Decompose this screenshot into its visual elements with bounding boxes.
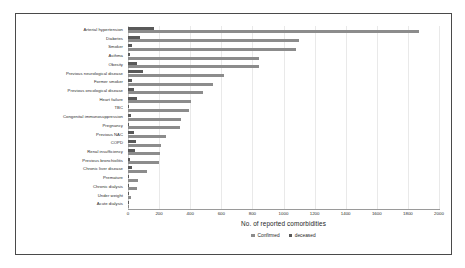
y-axis-label: Previous neurological disease — [66, 72, 123, 77]
y-axis-label: Previous NAC — [96, 133, 123, 138]
bar-deceased — [128, 158, 130, 161]
legend-item: deceased — [289, 233, 316, 238]
bar-deceased — [128, 62, 137, 65]
y-axis-label: Pregnancy — [103, 124, 123, 129]
bar-deceased — [128, 192, 129, 195]
bar-confirmed — [128, 144, 161, 147]
bar-group — [128, 70, 439, 79]
chart-figure: Arterial hypertensionDiabetesSmokerAsthm… — [15, 13, 452, 255]
bar-deceased — [128, 201, 129, 204]
bar-deceased — [128, 149, 135, 152]
x-tick-label: 1600 — [372, 211, 382, 216]
bar-confirmed — [128, 65, 259, 68]
x-axis-line — [128, 209, 440, 210]
bar-deceased — [128, 44, 132, 47]
bar-group — [128, 131, 439, 140]
x-tick-label: 600 — [218, 211, 225, 216]
bar-group — [128, 140, 439, 149]
bar-deceased — [128, 79, 132, 82]
bar-confirmed — [128, 83, 213, 86]
y-axis-label: Chronic liver disease — [83, 167, 123, 172]
x-tick-label: 1000 — [279, 211, 289, 216]
bar-confirmed — [128, 135, 166, 138]
bar-deceased — [128, 166, 132, 169]
y-axis-label: Arterial hypertension — [84, 28, 123, 33]
legend-label: Confirmed — [258, 233, 280, 238]
y-axis-label: TBC — [114, 106, 123, 111]
bar-group — [128, 184, 439, 193]
bar-confirmed — [128, 126, 180, 129]
bar-group — [128, 88, 439, 97]
bar-confirmed — [128, 118, 181, 121]
gridline-2000 — [439, 26, 440, 209]
y-axis-label: Former smoker — [94, 80, 123, 85]
bar-group — [128, 62, 439, 71]
legend-swatch-icon — [251, 234, 255, 238]
bar-deceased — [128, 27, 154, 30]
bar-group — [128, 105, 439, 114]
y-axis-label: Premature — [103, 176, 123, 181]
bar-deceased — [128, 184, 129, 187]
x-tick-label: 800 — [249, 211, 256, 216]
y-axis-label: Acute dialysis — [97, 202, 123, 207]
bar-deceased — [128, 114, 131, 117]
legend-label: deceased — [295, 233, 316, 238]
bar-confirmed — [128, 109, 189, 112]
y-axis-label: Smoker — [108, 45, 123, 50]
y-axis-label: Under weight — [98, 194, 123, 199]
bar-confirmed — [128, 30, 419, 33]
bar-group — [128, 175, 439, 184]
bar-deceased — [128, 97, 137, 100]
y-axis-label: Asthma — [109, 54, 124, 59]
bar-group — [128, 114, 439, 123]
bar-deceased — [128, 140, 136, 143]
y-axis-label: Heart failure — [100, 98, 123, 103]
bar-group — [128, 27, 439, 36]
bar-deceased — [128, 131, 134, 134]
y-axis-category-labels: Arterial hypertensionDiabetesSmokerAsthm… — [16, 26, 126, 209]
bar-confirmed — [128, 187, 137, 190]
bar-confirmed — [128, 91, 203, 94]
legend-item: Confirmed — [251, 233, 279, 238]
x-tick-label: 200 — [155, 211, 162, 216]
y-axis-label: Chronic dialysis — [93, 185, 123, 190]
bar-group — [128, 149, 439, 158]
bar-group — [128, 158, 439, 167]
x-tick-label: 400 — [187, 211, 194, 216]
bar-confirmed — [128, 39, 299, 42]
x-tick-label: 1200 — [310, 211, 320, 216]
y-axis-label: Previous bronchiolitis — [82, 159, 123, 164]
bar-group — [128, 97, 439, 106]
y-axis-label: Renal insufficiency — [87, 150, 123, 155]
x-tick-label: 2000 — [434, 211, 444, 216]
bar-deceased — [128, 36, 140, 39]
bar-group — [128, 36, 439, 45]
bar-confirmed — [128, 179, 138, 182]
bar-group — [128, 166, 439, 175]
bar-deceased — [128, 123, 129, 126]
y-axis-label: Congenital immunosuppression — [63, 115, 123, 120]
bar-confirmed — [128, 161, 159, 164]
bar-deceased — [128, 53, 130, 56]
bar-confirmed — [128, 57, 259, 60]
y-axis-label: Previous oncological disease — [68, 89, 123, 94]
bar-confirmed — [128, 48, 296, 51]
bar-confirmed — [128, 152, 160, 155]
chart-legend: Confirmeddeceased — [128, 233, 439, 238]
x-tick-label: 0 — [127, 211, 129, 216]
bar-confirmed — [128, 205, 129, 208]
bar-deceased — [128, 105, 129, 108]
y-axis-label: COPD — [111, 141, 123, 146]
bar-deceased — [128, 70, 143, 73]
bar-group — [128, 79, 439, 88]
bar-group — [128, 192, 439, 201]
plot-area — [128, 26, 439, 209]
bar-group — [128, 53, 439, 62]
bar-confirmed — [128, 170, 147, 173]
bar-deceased — [128, 88, 134, 91]
bar-deceased — [128, 175, 129, 178]
legend-swatch-icon — [289, 234, 293, 238]
bar-group — [128, 44, 439, 53]
bar-group — [128, 123, 439, 132]
y-axis-label: Obesity — [108, 63, 123, 68]
